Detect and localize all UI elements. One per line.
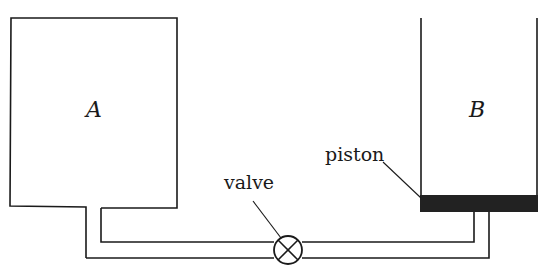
valve-icon[interactable]	[274, 236, 302, 264]
valve-leader-line	[253, 201, 281, 238]
apparatus-diagram: A B piston valve	[0, 0, 540, 271]
container-a-label: A	[84, 97, 102, 122]
pipe-inner-left	[101, 208, 274, 242]
valve-label: valve	[223, 171, 274, 193]
pipe-outer-right	[302, 212, 489, 258]
piston[interactable]	[420, 195, 538, 212]
piston-leader-line	[383, 162, 421, 198]
piston-label: piston	[325, 143, 384, 165]
container-b-label: B	[468, 97, 485, 122]
pipe-inner-right	[302, 212, 474, 242]
container-a-outline	[10, 18, 177, 258]
